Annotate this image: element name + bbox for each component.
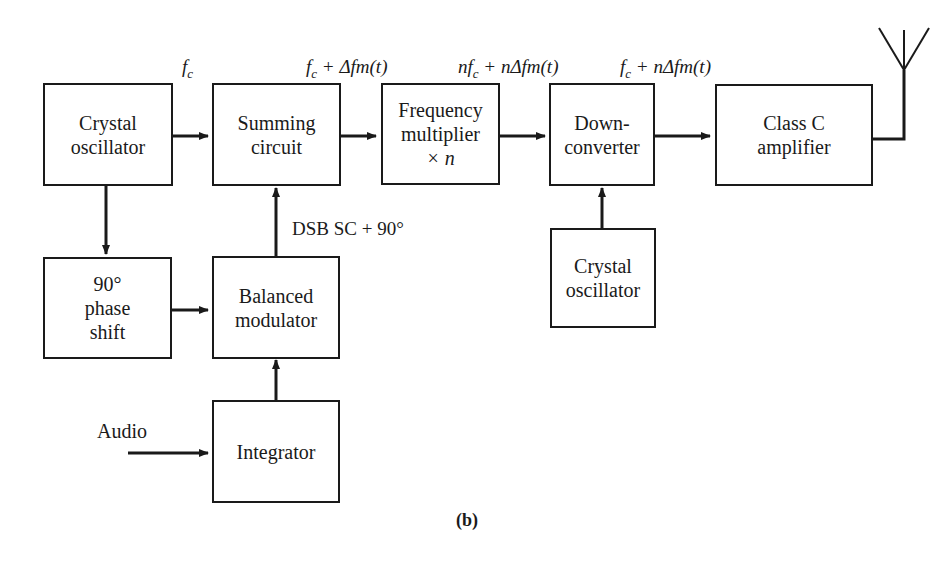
crystal-oscillator-block: Crystal oscillator (43, 83, 173, 186)
integrator-block: Integrator (212, 400, 340, 503)
block-label: × n (426, 146, 455, 170)
signal-label-fc: fc (182, 56, 193, 82)
block-label: oscillator (566, 278, 640, 302)
class-c-amplifier-block: Class C amplifier (715, 84, 873, 186)
balanced-modulator-block: Balanced modulator (212, 256, 340, 359)
block-label: Crystal (574, 254, 632, 278)
block-label: modulator (235, 308, 317, 332)
signal-label-downconverter-output: fc + nΔfm(t) (620, 56, 711, 82)
block-label: Crystal (79, 111, 137, 135)
block-label: converter (564, 135, 640, 159)
block-label: Balanced (239, 284, 313, 308)
block-label: phase (85, 296, 131, 320)
block-label: 90° (94, 272, 122, 296)
signal-label-audio: Audio (97, 420, 147, 443)
signal-label-summing-output: fc + Δfm(t) (306, 56, 387, 82)
block-label: circuit (251, 135, 302, 159)
block-label: Class C (763, 111, 825, 135)
block-label: amplifier (757, 135, 830, 159)
antenna-icon (879, 28, 929, 70)
down-converter-block: Down- converter (549, 83, 655, 186)
block-label: multiplier (401, 122, 480, 146)
signal-label-multiplier-output: nfc + nΔfm(t) (458, 56, 558, 82)
block-label: Integrator (237, 440, 316, 464)
phase-shift-block: 90° phase shift (43, 257, 172, 359)
frequency-multiplier-block: Frequency multiplier × n (381, 83, 500, 185)
signal-label-dsb-sc: DSB SC + 90° (292, 218, 404, 240)
block-label: Summing (238, 111, 316, 135)
block-label: Down- (574, 111, 630, 135)
block-label: oscillator (71, 135, 145, 159)
block-label: Frequency (398, 98, 482, 122)
summing-circuit-block: Summing circuit (212, 83, 341, 186)
figure-caption: (b) (456, 510, 478, 531)
block-label: shift (90, 320, 126, 344)
crystal-oscillator-2-block: Crystal oscillator (550, 228, 656, 328)
